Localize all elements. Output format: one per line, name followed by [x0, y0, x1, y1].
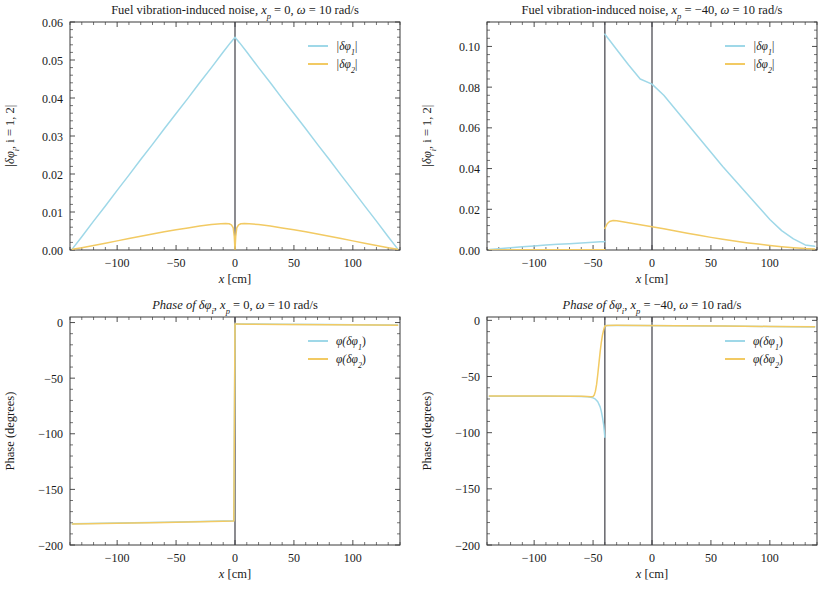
legend-label: φ(δφ2): [336, 353, 366, 370]
x-tick-label: −100: [105, 256, 130, 270]
plot-title: Fuel vibration-induced noise, xp = 0, ω …: [111, 3, 359, 21]
y-tick-label: 0: [57, 316, 63, 330]
legend-label: |δφ1|: [753, 40, 774, 57]
y-tick-label: −200: [38, 539, 63, 553]
x-tick-label: 50: [288, 551, 300, 565]
y-axis-label: Phase (degrees): [3, 392, 17, 471]
y-tick-label: 0.03: [42, 130, 63, 144]
legend: |δφ1||δφ2|: [725, 40, 774, 75]
x-tick-label: −100: [105, 551, 130, 565]
y-tick-label: 0.02: [42, 168, 63, 182]
x-axis-label: x [cm]: [635, 567, 668, 581]
x-axis-label: x [cm]: [635, 272, 668, 286]
plot-title: Phase of δφi, xp = −40, ω = 10 rad/s: [562, 298, 742, 316]
y-tick-label: 0.04: [42, 92, 63, 106]
plot-canvas: Phase of δφi, xp = 0, ω = 10 rad/s−100−5…: [0, 295, 417, 591]
x-tick-label: 0: [232, 551, 238, 565]
y-tick-label: 0.05: [42, 54, 63, 68]
legend-item: |δφ2|: [725, 58, 774, 75]
plot-canvas: Fuel vibration-induced noise, xp = 0, ω …: [0, 0, 417, 295]
y-tick-label: 0.00: [42, 244, 63, 258]
legend-item: φ(δφ1): [308, 335, 366, 352]
panel-bottom-left: Phase of δφi, xp = 0, ω = 10 rad/s−100−5…: [0, 295, 417, 591]
x-tick-label: 50: [288, 256, 300, 270]
legend-label: φ(δφ1): [753, 335, 783, 352]
y-tick-label: 0.10: [459, 40, 480, 54]
x-tick-label: 100: [761, 551, 779, 565]
y-tick-label: −150: [38, 483, 63, 497]
x-tick-label: 100: [344, 256, 362, 270]
legend: |δφ1||δφ2|: [308, 40, 357, 75]
x-axis-label: x [cm]: [218, 567, 251, 581]
legend: φ(δφ1)φ(δφ2): [725, 335, 783, 370]
x-tick-label: 0: [232, 256, 238, 270]
legend-item: φ(δφ1): [725, 335, 783, 352]
x-tick-label: 0: [649, 551, 655, 565]
legend-label: |δφ2|: [753, 58, 774, 75]
legend-item: |δφ1|: [725, 40, 774, 57]
y-tick-label: −100: [455, 426, 480, 440]
y-axis-ticks: 0−50−100−150−200: [38, 316, 400, 552]
y-tick-label: 0.08: [459, 81, 480, 95]
y-tick-label: −100: [38, 427, 63, 441]
legend-item: |δφ1|: [308, 40, 357, 57]
x-tick-label: 50: [705, 256, 717, 270]
plot-title: Fuel vibration-induced noise, xp = −40, …: [522, 3, 783, 21]
x-tick-label: −50: [167, 256, 186, 270]
x-tick-label: 0: [649, 256, 655, 270]
y-tick-label: −50: [44, 372, 63, 386]
x-tick-label: −50: [584, 256, 603, 270]
y-tick-label: 0.00: [459, 244, 480, 258]
y-axis-label: |δφi, i = 1, 2|: [420, 105, 438, 168]
y-tick-label: 0.06: [459, 121, 480, 135]
plot-area: [489, 317, 814, 545]
legend-item: φ(δφ2): [725, 353, 783, 370]
y-tick-label: 0: [474, 314, 480, 328]
legend-label: φ(δφ1): [336, 335, 366, 352]
y-tick-label: 0.06: [42, 16, 63, 30]
panel-top-right: Fuel vibration-induced noise, xp = −40, …: [417, 0, 834, 295]
y-axis-label: |δφi, i = 1, 2|: [3, 105, 21, 168]
y-tick-label: −200: [455, 539, 480, 553]
plot-canvas: Fuel vibration-induced noise, xp = −40, …: [417, 0, 834, 295]
legend-label: |δφ2|: [336, 58, 357, 75]
legend-item: φ(δφ2): [308, 353, 366, 370]
legend: φ(δφ1)φ(δφ2): [308, 335, 366, 370]
legend-item: |δφ2|: [308, 58, 357, 75]
panel-bottom-right: Phase of δφi, xp = −40, ω = 10 rad/s−100…: [417, 295, 834, 591]
plot-canvas: Phase of δφi, xp = −40, ω = 10 rad/s−100…: [417, 295, 834, 591]
x-tick-label: 100: [761, 256, 779, 270]
plot-area: [72, 22, 397, 250]
y-tick-label: 0.04: [459, 162, 480, 176]
legend-label: |δφ1|: [336, 40, 357, 57]
y-tick-label: 0.01: [42, 206, 63, 220]
plot-area: [72, 317, 397, 545]
x-axis-label: x [cm]: [218, 272, 251, 286]
x-tick-label: −100: [522, 256, 547, 270]
y-tick-label: 0.02: [459, 203, 480, 217]
legend-label: φ(δφ2): [753, 353, 783, 370]
panel-top-left: Fuel vibration-induced noise, xp = 0, ω …: [0, 0, 417, 295]
x-tick-label: −50: [584, 551, 603, 565]
y-tick-label: −50: [461, 370, 480, 384]
x-tick-label: −100: [522, 551, 547, 565]
plot-title: Phase of δφi, xp = 0, ω = 10 rad/s: [151, 298, 318, 316]
y-tick-label: −150: [455, 482, 480, 496]
x-tick-label: 100: [344, 551, 362, 565]
x-tick-label: 50: [705, 551, 717, 565]
y-axis-ticks: 0−50−100−150−200: [455, 314, 817, 553]
figure-four-panel-plot: Fuel vibration-induced noise, xp = 0, ω …: [0, 0, 834, 591]
y-axis-label: Phase (degrees): [420, 392, 434, 471]
x-tick-label: −50: [167, 551, 186, 565]
plot-area: [489, 22, 814, 250]
